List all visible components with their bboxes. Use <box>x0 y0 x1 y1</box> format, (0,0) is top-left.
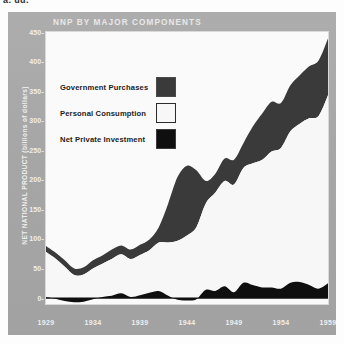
y-tick-450: 450- <box>29 29 44 36</box>
chart-title: NNP BY MAJOR COMPONENTS <box>53 18 202 27</box>
y-axis-tick-labels: 450-400-350-300-250-200-150-100-50-0- <box>18 12 44 335</box>
y-tick-350: 350- <box>29 88 44 95</box>
y-tick-300: 300- <box>29 117 44 124</box>
plot-area <box>46 32 328 304</box>
legend-item-net-private-investment: Net Private Investment <box>60 126 188 152</box>
y-tick-200: 200- <box>29 176 44 183</box>
x-tick-1929: 1929 <box>38 319 55 326</box>
x-tick-1939: 1939 <box>132 319 149 326</box>
y-tick-150: 150- <box>29 206 44 213</box>
y-tick-0: 0- <box>37 295 44 302</box>
chart-card: NNP BY MAJOR COMPONENTS NET NATIONAL PRO… <box>8 12 336 335</box>
investment-swatch-icon <box>156 129 176 149</box>
y-tick-100: 100- <box>29 235 44 242</box>
legend-label-net-private-investment: Net Private Investment <box>60 135 145 144</box>
x-tick-1949: 1949 <box>226 319 243 326</box>
consumption-swatch-icon <box>156 103 176 123</box>
stacked-area-svg <box>46 32 328 304</box>
x-tick-1934: 1934 <box>85 319 102 326</box>
chart-legend: Government Purchases Personal Consumptio… <box>60 74 188 152</box>
x-tick-1944: 1944 <box>179 319 196 326</box>
x-axis-tick-labels: 1929193419391944194919541959 <box>8 319 336 329</box>
figure-root: a. uu. NNP BY MAJOR COMPONENTS NET NATIO… <box>0 0 344 344</box>
legend-item-government-purchases: Government Purchases <box>60 74 188 100</box>
cropped-top-text-fragment: a. uu. <box>3 0 63 5</box>
x-tick-1954: 1954 <box>273 319 290 326</box>
y-tick-50: 50- <box>33 265 44 272</box>
legend-label-government-purchases: Government Purchases <box>60 83 148 92</box>
x-tick-1959: 1959 <box>320 319 337 326</box>
legend-item-personal-consumption: Personal Consumption <box>60 100 188 126</box>
legend-label-personal-consumption: Personal Consumption <box>60 109 146 118</box>
y-tick-400: 400- <box>29 58 44 65</box>
gov-swatch-icon <box>156 77 176 97</box>
y-tick-250: 250- <box>29 147 44 154</box>
